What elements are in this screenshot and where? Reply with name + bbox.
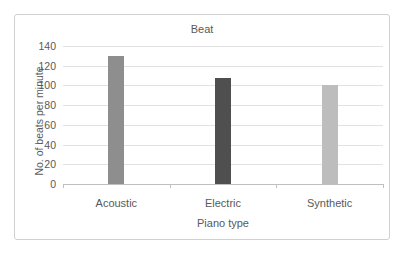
x-axis-tick-0 <box>63 184 64 188</box>
x-category-label-acoustic: Acoustic <box>96 197 138 209</box>
y-tick-label-120: 120 <box>26 60 56 72</box>
bar-electric <box>215 78 231 184</box>
chart-title: Beat <box>15 23 389 35</box>
chart-image: Beat No. of beats per minute 02040608010… <box>0 0 404 253</box>
y-tick-label-60: 60 <box>26 119 56 131</box>
y-tick-label-100: 100 <box>26 79 56 91</box>
y-tick-label-80: 80 <box>26 99 56 111</box>
chart-frame: Beat No. of beats per minute 02040608010… <box>14 14 390 240</box>
bar-synthetic <box>322 85 338 184</box>
x-axis-tick-1 <box>170 184 171 188</box>
gridline-140 <box>63 46 383 47</box>
y-tick-label-0: 0 <box>26 178 56 190</box>
y-tick-label-20: 20 <box>26 158 56 170</box>
x-category-label-synthetic: Synthetic <box>307 197 352 209</box>
y-tick-label-40: 40 <box>26 139 56 151</box>
x-axis-tick-3 <box>383 184 384 188</box>
x-category-label-electric: Electric <box>205 197 241 209</box>
y-tick-label-140: 140 <box>26 40 56 52</box>
x-axis-tick-2 <box>276 184 277 188</box>
x-axis-title: Piano type <box>63 217 383 229</box>
plot-area: 020406080100120140AcousticElectricSynthe… <box>63 46 383 185</box>
bar-acoustic <box>108 56 124 184</box>
